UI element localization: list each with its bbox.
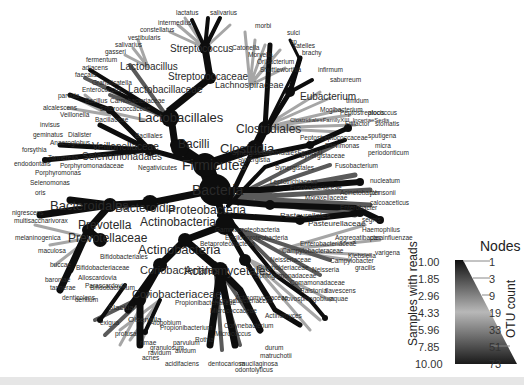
- label-pasteurellaceae: Pasteurellaceae: [308, 219, 366, 228]
- label-minor: Comamonadaceae: [290, 279, 345, 286]
- legend-left-tick: 10.00: [415, 358, 443, 370]
- label-minor: Granulicatella: [92, 79, 132, 86]
- legend-left-tick: 4.33: [418, 307, 439, 319]
- label-minor: Selenomonas: [30, 179, 70, 186]
- label-minor: varigena: [375, 249, 400, 257]
- label-minor: Novosphingobium: [282, 295, 334, 303]
- label-minor: gasseri: [105, 48, 126, 56]
- label-minor: Micrococcus: [215, 330, 252, 337]
- label-minor: flavescens: [325, 287, 356, 294]
- label-minor: Carnobacteriaceae: [110, 97, 165, 104]
- label-minor: multisaccharivorax: [14, 217, 69, 224]
- label-minor: rimae: [140, 339, 157, 346]
- label-minor: Bifidobacteriaceae: [76, 264, 130, 271]
- label-minor: lactatus: [176, 9, 199, 16]
- label-minor: forsythia: [22, 146, 47, 154]
- label-minor: Catonella: [232, 44, 260, 51]
- label-minor: alocis: [368, 109, 385, 116]
- label-minor: salivarius: [115, 41, 143, 48]
- label-coriobacteriales: Coriobacteriales: [140, 264, 220, 276]
- label-minor: Fusobacteriaceae: [290, 184, 342, 191]
- label-minor: Alloscardovia: [78, 274, 117, 281]
- label-minor: adiacens: [82, 64, 109, 71]
- label-minor: Synergistia: [238, 156, 271, 164]
- label-minor: Porphyromonas: [35, 169, 82, 177]
- label-minor: Peptostreptococcaceae: [300, 134, 368, 142]
- label-minor: vestibularis: [128, 34, 161, 41]
- label-minor: acidifaciens: [165, 360, 200, 367]
- label-minor: parvulum: [173, 339, 200, 347]
- label-minor: Shuttleworthia: [260, 66, 302, 73]
- label-minor: Haemophilus: [362, 226, 401, 234]
- label-minor: gracilis: [355, 264, 376, 272]
- label-root: Bacteria: [192, 182, 244, 198]
- label-minor: Atopobium: [150, 319, 181, 327]
- label-minor: Bacillus: [85, 97, 108, 104]
- label-minor: Filifactor: [345, 120, 370, 127]
- label-minor: buccae: [50, 261, 71, 268]
- label-clostridiales: Clostridiales: [236, 122, 301, 136]
- legend-right-tick: 9: [489, 290, 495, 302]
- label-minor: Negativicutes: [138, 164, 178, 172]
- label-minor: morbi: [255, 22, 271, 29]
- label-prevotellaceae: Prevotellaceae: [68, 231, 148, 245]
- legend-left-tick: 7.85: [418, 341, 439, 353]
- label-minor: Slackia: [108, 303, 134, 312]
- label-minor: faecalis: [75, 71, 98, 78]
- label-minor: Anaeroglobus: [50, 139, 91, 147]
- legend-right-tick: 19: [489, 307, 501, 319]
- label-minor: Burkholderiaceae: [258, 264, 309, 271]
- label-minor: timidum: [346, 97, 369, 104]
- legend-right-tick: 51: [489, 341, 501, 353]
- label-minor: sulci: [287, 29, 300, 36]
- label-bacteroidales: Bacteroidales: [50, 198, 129, 213]
- label-minor: Micrococcaceae: [210, 307, 257, 314]
- label-minor: nigrescens: [12, 209, 44, 217]
- label-minor: Klebsiella: [348, 252, 376, 259]
- bottom-strip: [0, 377, 524, 385]
- legend-right-tick: 1: [489, 256, 495, 268]
- label-prevotella: Prevotella: [78, 218, 132, 232]
- label-minor: Fusobacterium: [335, 162, 378, 169]
- label-minor: nucleatum: [370, 177, 400, 184]
- label-minor: salivarius: [210, 9, 238, 16]
- label-minor: Corynebacterium: [224, 322, 274, 330]
- label-minor: brachy: [302, 49, 322, 57]
- label-minor: odontolyticus: [235, 366, 274, 374]
- legend-right-tick: 3: [489, 273, 495, 285]
- label-minor: Propionibacteriaceae: [175, 299, 236, 307]
- label-minor: profusa: [115, 330, 137, 338]
- label-lactobacillales: Lactobacillales: [138, 110, 224, 125]
- label-firmicutes: Firmicutes: [182, 157, 247, 173]
- label-minor: Tannerella: [48, 154, 78, 161]
- label-minor: Gammaproteobacteria: [215, 226, 280, 234]
- label-minor: endodontalis: [14, 160, 52, 167]
- nodes-legend: Nodes 1.00 1.85 2.96 4.33 5.96 7.85 10.0…: [418, 238, 524, 370]
- label-minor: Synergistaceae: [300, 152, 345, 160]
- legend-title: Nodes: [480, 238, 520, 254]
- label-minor: geminatus: [33, 131, 64, 139]
- label-minor: tannerae: [50, 284, 76, 291]
- label-minor: stomatis: [375, 120, 400, 127]
- label-veillonellaceae: Veillonellaceae: [92, 141, 159, 152]
- label-minor: Synergistales: [275, 164, 315, 172]
- label-minor: Veillonella: [60, 111, 90, 118]
- label-minor: invisus: [40, 121, 61, 128]
- legend-right-tick: 73: [489, 358, 501, 370]
- label-minor: matruchotii: [260, 352, 292, 359]
- label-minor: Enterobacter: [340, 204, 378, 211]
- label-minor: sputigena: [368, 132, 397, 140]
- label-selenomonadales: Selenomonadales: [82, 151, 162, 162]
- label-minor: saburreum: [330, 76, 361, 83]
- label-lactobacillus: Lactobacillus: [120, 61, 178, 72]
- label-minor: Mogibacterium: [320, 106, 363, 114]
- label-minor: satelles: [293, 42, 316, 49]
- legend-left-tick: 5.96: [418, 324, 439, 336]
- label-minor: denticolens: [62, 294, 96, 301]
- label-minor: maculosa: [38, 247, 66, 254]
- label-minor: fermentum: [86, 56, 117, 63]
- label-minor: aquae: [330, 295, 348, 303]
- label-minor: Bacillaceae: [95, 116, 129, 123]
- legend-samples-axis-label: Samples with reads: [406, 241, 420, 346]
- label-streptococcus: Streptococcus: [170, 43, 233, 54]
